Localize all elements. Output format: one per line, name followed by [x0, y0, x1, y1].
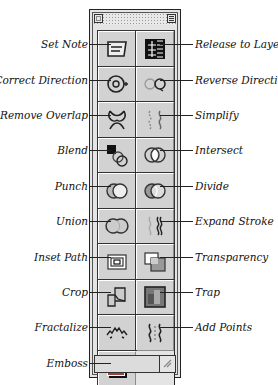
callout-label: Divide — [195, 180, 229, 192]
tool-crop[interactable] — [98, 280, 136, 316]
tool-remove-overlap[interactable] — [98, 102, 136, 138]
status-field — [95, 356, 160, 372]
close-box-icon[interactable] — [94, 14, 103, 23]
callout-label: Expand Stroke — [195, 215, 274, 227]
tool-add-points[interactable] — [136, 315, 174, 351]
fractalize-icon — [104, 320, 130, 346]
leader-line — [89, 292, 111, 293]
remove-overlap-icon — [104, 107, 130, 133]
palette-footer — [94, 355, 176, 373]
leader-line — [160, 186, 193, 187]
tool-inset-path[interactable] — [98, 244, 136, 280]
callout-label: Fractalize — [35, 321, 88, 333]
leader-line — [160, 221, 193, 222]
leader-line — [89, 80, 111, 81]
plugin-tools-palette — [89, 9, 181, 378]
tool-trap[interactable] — [136, 280, 174, 316]
callout-label: Union — [56, 215, 88, 227]
tool-release-to-layers[interactable] — [136, 31, 174, 67]
callout-label: Inset Path — [34, 251, 88, 263]
tool-union[interactable] — [98, 209, 136, 245]
correct-direction-icon — [104, 71, 130, 97]
union-icon — [104, 213, 130, 239]
leader-line — [160, 115, 193, 116]
crop-icon — [104, 284, 130, 310]
tool-set-note[interactable] — [98, 31, 136, 67]
blend-icon — [104, 142, 130, 168]
punch-icon — [104, 178, 130, 204]
callout-label: Set Note — [41, 38, 88, 50]
tool-grid — [97, 30, 175, 385]
tool-punch[interactable] — [98, 173, 136, 209]
reverse-direction-icon — [142, 71, 168, 97]
leader-line — [160, 80, 193, 81]
palette-title-bar[interactable] — [93, 13, 177, 25]
leader-line — [160, 327, 193, 328]
callout-label: Punch — [55, 180, 88, 192]
leader-line — [89, 186, 111, 187]
leader-line — [89, 327, 111, 328]
callout-label: Intersect — [195, 144, 243, 156]
leader-line — [89, 150, 111, 151]
callout-label: Add Points — [195, 321, 252, 333]
layers-icon — [142, 36, 168, 62]
leader-line — [160, 150, 193, 151]
leader-line — [89, 257, 111, 258]
add-points-icon — [142, 320, 168, 346]
callout-label: Simplify — [195, 109, 239, 121]
leader-line — [160, 257, 193, 258]
tool-blend[interactable] — [98, 138, 136, 174]
callout-label: Blend — [57, 144, 88, 156]
leader-line — [89, 221, 111, 222]
leader-line — [89, 115, 111, 116]
tool-expand-stroke[interactable] — [136, 209, 174, 245]
callout-label: Emboss — [47, 357, 88, 369]
callout-label: Correct Direction — [0, 74, 88, 86]
callout-label: Trap — [195, 286, 220, 298]
callout-label: Crop — [62, 286, 88, 298]
leader-line — [160, 44, 193, 45]
expand-stroke-icon — [142, 213, 168, 239]
resize-grip-icon[interactable] — [161, 357, 174, 370]
inset-path-icon — [104, 249, 130, 275]
callout-label: Transparency — [195, 251, 268, 263]
transparency-icon — [142, 249, 168, 275]
tool-intersect[interactable] — [136, 138, 174, 174]
callout-label: Remove Overlap — [0, 109, 88, 121]
leader-line — [160, 292, 193, 293]
collapse-box-icon[interactable] — [167, 14, 176, 23]
tool-simplify[interactable] — [136, 102, 174, 138]
tool-transparency[interactable] — [136, 244, 174, 280]
callout-label: Reverse Direction — [195, 74, 278, 86]
tool-divide[interactable] — [136, 173, 174, 209]
simplify-icon — [142, 107, 168, 133]
leader-line — [89, 44, 111, 45]
tool-fractalize[interactable] — [98, 315, 136, 351]
tool-reverse-direction[interactable] — [136, 67, 174, 103]
tool-correct-direction[interactable] — [98, 67, 136, 103]
note-icon — [104, 36, 130, 62]
divide-icon — [142, 178, 168, 204]
trap-icon — [142, 284, 168, 310]
leader-line — [89, 363, 111, 364]
callout-label: Release to Layers — [195, 38, 278, 50]
intersect-icon — [142, 142, 168, 168]
